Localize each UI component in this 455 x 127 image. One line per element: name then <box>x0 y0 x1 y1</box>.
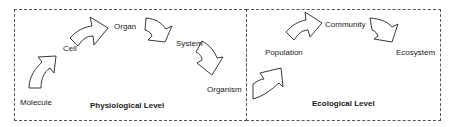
node-population: Population <box>265 49 303 57</box>
arrow-population-to-community-icon <box>286 12 322 40</box>
node-organism: Organism <box>207 86 242 94</box>
node-organ: Organ <box>114 23 136 31</box>
arrow-organ-to-system-icon <box>145 18 172 42</box>
arrow-molecule-to-cell-icon <box>29 56 56 88</box>
ecological-level-title: Ecological Level <box>312 100 375 108</box>
arrow-organism-to-population-icon <box>253 68 283 99</box>
node-system: System <box>176 40 203 48</box>
arrow-community-to-ecosystem-icon <box>370 18 398 42</box>
node-molecule: Molecule <box>20 99 52 107</box>
arrows-layer <box>0 0 455 127</box>
node-community: Community <box>325 21 365 29</box>
node-cell: Cell <box>63 45 77 53</box>
node-ecosystem: Ecosystem <box>396 49 435 57</box>
arrow-cell-to-organ-icon <box>70 17 108 46</box>
physiological-level-title: Physiological Level <box>90 102 164 110</box>
